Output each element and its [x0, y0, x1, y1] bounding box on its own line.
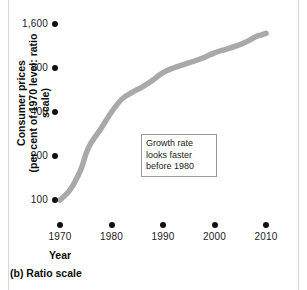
y-tick: 100 [0, 194, 58, 206]
x-tick-label: 1970 [38, 231, 82, 242]
y-axis-title: Consumer prices (per cent of 1970 level:… [15, 23, 51, 183]
y-tick-marker [52, 65, 58, 71]
y-axis-title-line-2: (per cent of 1970 level: ratio scale) [27, 23, 51, 183]
x-tick-marker [109, 222, 115, 228]
y-axis-title-line-1: Consumer prices [15, 23, 27, 183]
x-tick-label: 2010 [244, 231, 288, 242]
annotation-growth-rate: Growth rate looks faster before 1980 [141, 134, 217, 177]
annotation-line-1: Growth rate [146, 138, 212, 150]
x-tick-label: 1990 [141, 231, 185, 242]
x-tick-marker [160, 222, 166, 228]
x-tick-label: 2000 [193, 231, 237, 242]
y-tick-marker [52, 21, 58, 27]
x-tick-marker [263, 222, 269, 228]
annotation-line-3: before 1980 [146, 161, 212, 173]
x-tick-marker [57, 222, 63, 228]
x-axis-title: Year [38, 249, 82, 261]
x-tick-label: 1980 [90, 231, 134, 242]
y-tick-marker [52, 197, 58, 203]
y-tick-marker [52, 153, 58, 159]
figure-caption: (b) Ratio scale [10, 267, 82, 279]
figure-ratio-scale-chart: 1002004008001,600 19701980199020002010 C… [0, 0, 307, 290]
y-tick-label: 100 [31, 194, 48, 206]
x-tick-marker [212, 222, 218, 228]
annotation-line-2: looks faster [146, 150, 212, 162]
plot-area: 1002004008001,600 19701980199020002010 C… [0, 0, 307, 290]
y-tick-marker [52, 109, 58, 115]
